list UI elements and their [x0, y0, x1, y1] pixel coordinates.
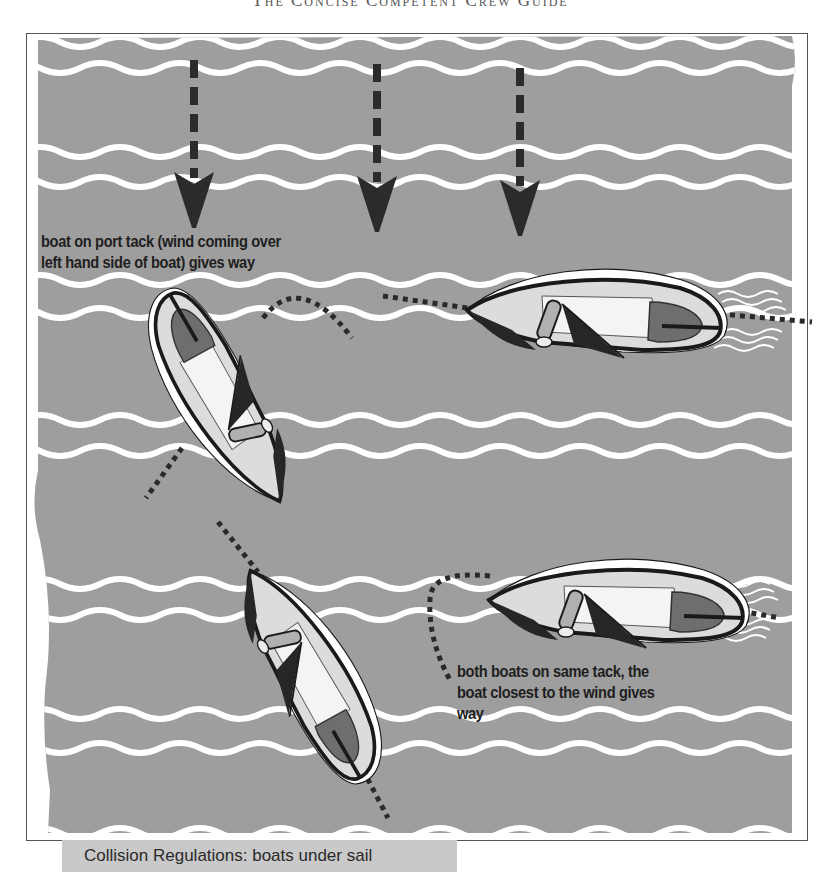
annotation-line: way — [457, 703, 655, 724]
annotation-line: left hand side of boat) gives way — [41, 252, 281, 273]
same-tack-annotation: both boats on same tack, the boat closes… — [457, 661, 655, 724]
sea-background — [0, 0, 821, 894]
annotation-line: both boats on same tack, the — [457, 661, 655, 682]
port-tack-annotation: boat on port tack (wind coming over left… — [41, 231, 281, 273]
annotation-line: boat on port tack (wind coming over — [41, 231, 281, 252]
collision-regulations-diagram — [0, 0, 821, 894]
figure-caption: Collision Regulations: boats under sail — [62, 840, 457, 872]
annotation-line: boat closest to the wind gives — [457, 682, 655, 703]
